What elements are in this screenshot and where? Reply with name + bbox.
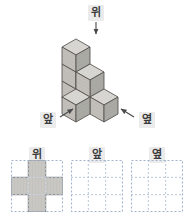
top-view-svg (11, 160, 63, 212)
grid-lines (131, 160, 183, 212)
cube-stack-illustration (0, 0, 194, 140)
front-view-svg (71, 160, 123, 212)
grid-border (72, 161, 123, 212)
arrow-side-line (121, 109, 134, 117)
grid-front-view[interactable] (71, 160, 123, 212)
grid-cell-filled[interactable] (28, 177, 45, 194)
grid-cell-filled[interactable] (11, 177, 28, 194)
grid-cell-filled[interactable] (28, 160, 45, 177)
grid-side-view[interactable] (131, 160, 183, 212)
isometric-scene: 위 앞 옆 (0, 0, 194, 140)
direction-label-front: 앞 (40, 112, 56, 128)
grid-cell-filled[interactable] (28, 195, 45, 212)
grid-border (132, 161, 183, 212)
grid-top-view[interactable] (11, 160, 63, 212)
grid-lines (71, 160, 123, 212)
side-view-svg (131, 160, 183, 212)
direction-label-side: 옆 (139, 112, 155, 128)
cube-stack (62, 39, 118, 122)
direction-label-top: 위 (88, 5, 104, 21)
grid-cell-filled[interactable] (46, 177, 63, 194)
